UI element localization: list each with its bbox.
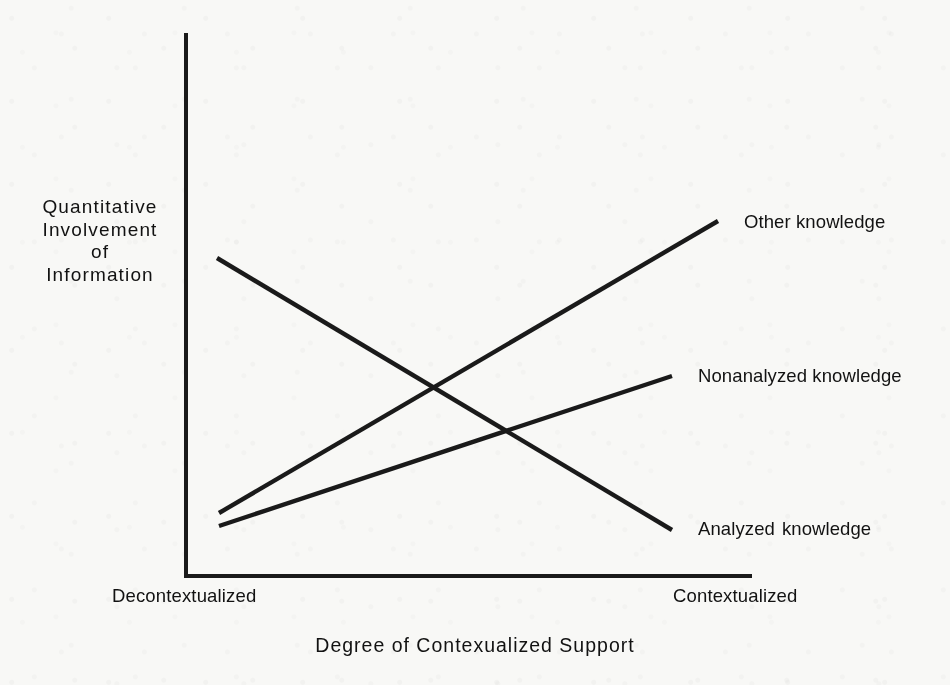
series-label-nonanalyzed-knowledge: Nonanalyzed knowledge	[698, 365, 902, 387]
series-line-nonanalyzed-knowledge	[219, 376, 672, 526]
series-label-analyzed-word-2: knowledge	[782, 518, 871, 539]
series-line-analyzed-knowledge	[217, 258, 672, 530]
y-axis-title-line-2: Involvement	[22, 219, 178, 242]
y-axis-title-line-4: Information	[22, 264, 178, 287]
x-axis-tick-label-left: Decontextualized	[112, 585, 256, 607]
x-axis-title: Degree of Contexualized Support	[0, 634, 950, 657]
chart-plot-area	[0, 0, 950, 685]
y-axis-title-line-1: Quantitative	[22, 196, 178, 219]
line-chart-figure: Quantitative Involvement of Information …	[0, 0, 950, 685]
y-axis-title-line-3: of	[22, 241, 178, 264]
series-line-other-knowledge	[219, 221, 718, 513]
series-label-analyzed-knowledge: Analyzedknowledge	[698, 518, 871, 540]
x-axis-tick-label-right: Contextualized	[673, 585, 797, 607]
y-axis-title: Quantitative Involvement of Information	[22, 196, 178, 286]
series-label-analyzed-word-1: Analyzed	[698, 518, 775, 539]
series-label-other-knowledge: Other knowledge	[744, 211, 885, 233]
